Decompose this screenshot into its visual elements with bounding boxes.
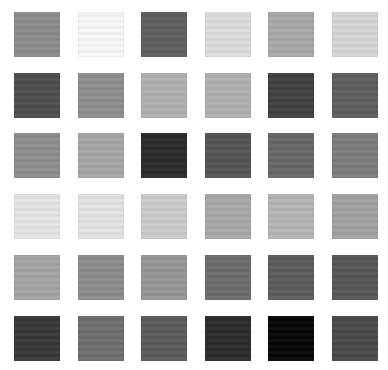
gray-swatch-r4-c1 <box>78 255 124 300</box>
gray-swatch-r0-c4 <box>268 12 314 57</box>
gray-swatch-r1-c1 <box>78 73 124 118</box>
gray-swatch-r0-c5 <box>332 12 378 57</box>
gray-swatch-r4-c0 <box>14 255 60 300</box>
gray-swatch-r2-c4 <box>268 133 314 178</box>
gray-swatch-r4-c2 <box>141 255 187 300</box>
gray-swatch-r2-c2 <box>141 133 187 178</box>
gray-swatch-r2-c3 <box>205 133 251 178</box>
gray-swatch-r3-c5 <box>332 194 378 239</box>
gray-swatch-r5-c5 <box>332 316 378 361</box>
gray-swatch-r4-c5 <box>332 255 378 300</box>
gray-swatch-r1-c0 <box>14 73 60 118</box>
gray-swatch-r5-c3 <box>205 316 251 361</box>
gray-swatch-r1-c3 <box>205 73 251 118</box>
gray-swatch-r0-c0 <box>14 12 60 57</box>
gray-swatch-r0-c1 <box>78 12 124 57</box>
gray-swatch-r3-c0 <box>14 194 60 239</box>
gray-swatch-r1-c5 <box>332 73 378 118</box>
gray-swatch-r5-c2 <box>141 316 187 361</box>
gray-swatch-r1-c4 <box>268 73 314 118</box>
gray-swatch-r2-c0 <box>14 133 60 178</box>
gray-swatch-r5-c0 <box>14 316 60 361</box>
gray-swatch-r3-c1 <box>78 194 124 239</box>
grayscale-swatch-grid <box>0 0 388 370</box>
gray-swatch-r0-c2 <box>141 12 187 57</box>
gray-swatch-r3-c2 <box>141 194 187 239</box>
gray-swatch-r2-c1 <box>78 133 124 178</box>
gray-swatch-r4-c4 <box>268 255 314 300</box>
gray-swatch-r5-c1 <box>78 316 124 361</box>
gray-swatch-r5-c4 <box>268 316 314 361</box>
gray-swatch-r2-c5 <box>332 133 378 178</box>
gray-swatch-r0-c3 <box>205 12 251 57</box>
gray-swatch-r3-c4 <box>268 194 314 239</box>
gray-swatch-r4-c3 <box>205 255 251 300</box>
gray-swatch-r3-c3 <box>205 194 251 239</box>
gray-swatch-r1-c2 <box>141 73 187 118</box>
